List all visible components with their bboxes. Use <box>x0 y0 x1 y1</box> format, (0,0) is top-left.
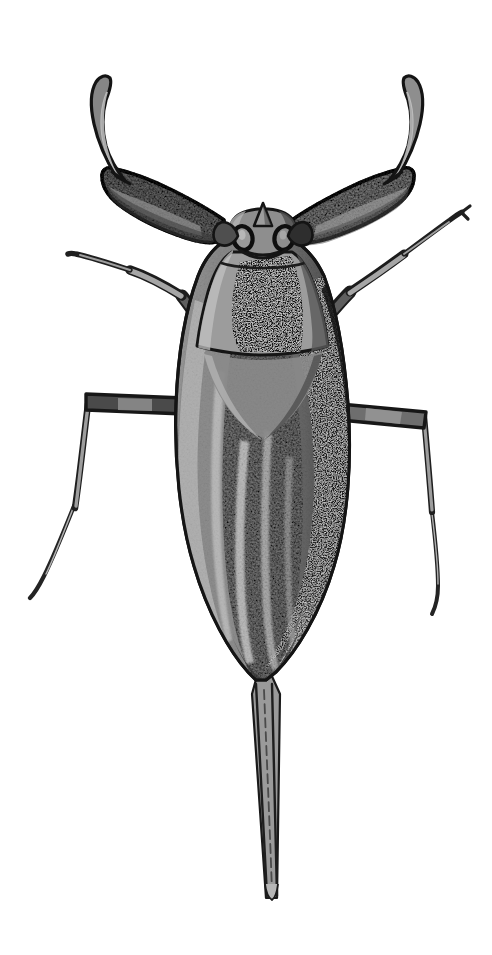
hindleg-left-femur-band <box>118 398 152 411</box>
pronotum-dark-patch <box>232 256 303 352</box>
water-scorpion-drawing <box>0 0 492 955</box>
compound-eye-right-highlight <box>280 230 287 239</box>
insect-illustration: Grayscale dorsal illustration of a water… <box>0 0 492 955</box>
compound-eye-left-highlight <box>238 230 245 240</box>
